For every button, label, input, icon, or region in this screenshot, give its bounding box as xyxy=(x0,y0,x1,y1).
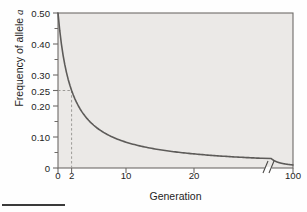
plot-background xyxy=(58,13,293,168)
figure-panel: the frequency of the allele in each cons… xyxy=(0,0,307,212)
y-tick-label: 0.10 xyxy=(0,132,50,143)
x-axis-title: Generation xyxy=(58,190,293,202)
y-tick-label: 0.20 xyxy=(0,101,50,112)
y-axis-title-text: Frequency of allele xyxy=(13,18,25,107)
y-tick-label: 0.40 xyxy=(0,39,50,50)
y-axis-title-allele: a xyxy=(13,9,25,15)
y-tick-label: 0 xyxy=(0,163,50,174)
x-tick-label: 2 xyxy=(69,170,74,181)
y-axis-title: Frequency of allele a xyxy=(13,0,25,121)
x-tick-label: 20 xyxy=(189,170,200,181)
x-tick-label: 10 xyxy=(121,170,132,181)
y-tick-label: 0.30 xyxy=(0,70,50,81)
x-tick-label: 0 xyxy=(55,170,60,181)
page-rule xyxy=(2,204,65,206)
y-tick-label: 0.25 xyxy=(0,85,50,96)
x-tick-label: 100 xyxy=(285,170,301,181)
y-tick-label: 0.50 xyxy=(0,8,50,19)
